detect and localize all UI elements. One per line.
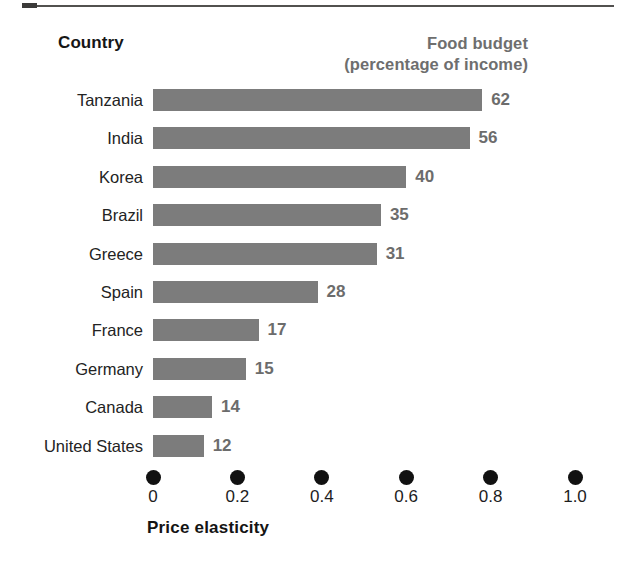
axis-tick-dot	[483, 470, 498, 485]
axis-tick-label: 1.0	[545, 487, 605, 507]
chart-figure: Country Food budget (percentage of incom…	[0, 0, 617, 563]
axis-tick-label: 0.8	[461, 487, 521, 507]
axis-tick-label: 0.6	[376, 487, 436, 507]
axis-tick-label: 0.2	[207, 487, 267, 507]
axis-tick-dot	[146, 470, 161, 485]
axis-tick-label: 0.4	[292, 487, 352, 507]
x-axis: 00.20.40.60.81.0	[0, 0, 617, 563]
axis-tick-label: 0	[123, 487, 183, 507]
axis-tick-dot	[230, 470, 245, 485]
axis-tick-dot	[399, 470, 414, 485]
axis-tick-dot	[314, 470, 329, 485]
x-axis-title: Price elasticity	[147, 518, 269, 538]
axis-tick-dot	[568, 470, 583, 485]
